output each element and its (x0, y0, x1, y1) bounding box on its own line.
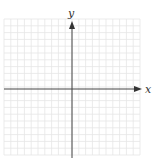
y-axis-label: y (67, 7, 75, 20)
y-axis-arrow-icon (69, 21, 75, 29)
coordinate-plane: x y (0, 0, 153, 163)
x-axis-label: x (145, 83, 152, 96)
